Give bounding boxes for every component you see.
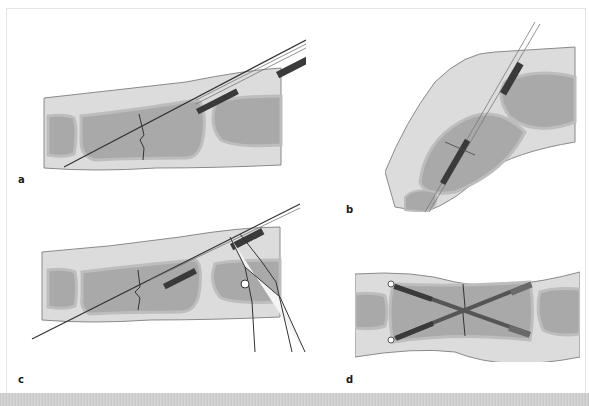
panel-d-illustration: [355, 262, 580, 362]
bottom-band: [0, 393, 589, 406]
panel-a-illustration: [36, 30, 306, 175]
panel-label-d: d: [346, 374, 353, 385]
panel-label-c: c: [18, 374, 24, 385]
panel-label-a: a: [18, 174, 25, 185]
panel-c-illustration: [30, 202, 310, 362]
panel-label-b: b: [346, 204, 353, 215]
panel-b-illustration: [385, 22, 585, 212]
